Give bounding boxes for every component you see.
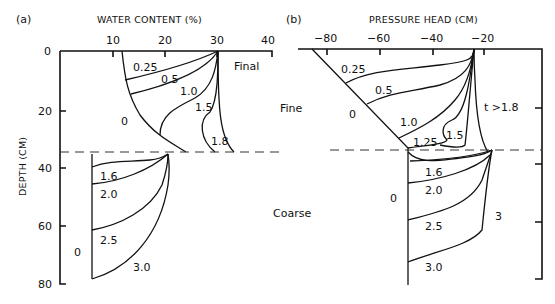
label-a-t15: 1.5 <box>195 101 213 114</box>
label-b-c25: 2.5 <box>425 220 443 233</box>
curve-a-c16 <box>92 154 168 167</box>
layer-label-fine: Fine <box>280 102 303 115</box>
label-b-t05: 0.5 <box>375 84 393 97</box>
label-b-t15: 1.5 <box>446 129 464 142</box>
label-b-t0: 0 <box>349 108 356 121</box>
y-tick-40: 40 <box>38 162 52 175</box>
panel-a-y-ticks <box>60 111 66 226</box>
label-a-c20: 2.0 <box>100 188 118 201</box>
label-a-c30: 3.0 <box>133 261 151 274</box>
curve-b-t125 <box>408 49 474 148</box>
y-tick-60: 60 <box>38 220 52 233</box>
x-tick-neg40: −40 <box>420 32 443 45</box>
label-a-t18: 1.8 <box>211 135 229 148</box>
label-a-c16: 1.6 <box>100 170 118 183</box>
label-a-t025: 0.25 <box>133 61 158 74</box>
x-tick-10: 10 <box>106 34 120 47</box>
label-b-c16: 1.6 <box>425 166 443 179</box>
x-tick-neg80: −80 <box>314 32 337 45</box>
label-b-c0: 0 <box>390 192 397 205</box>
y-tick-80: 80 <box>38 278 52 291</box>
label-b-t-gt-18: t >1.8 <box>484 101 519 114</box>
y-tick-0: 0 <box>44 45 51 58</box>
label-a-t0: 0 <box>121 115 128 128</box>
panel-b-frame <box>298 49 542 279</box>
panel-a-label: (a) <box>16 13 31 26</box>
curve-b-c30 <box>408 150 492 262</box>
label-b-t025: 0.25 <box>341 63 366 76</box>
x-tick-30: 30 <box>210 34 224 47</box>
label-a-c25: 2.5 <box>100 234 118 247</box>
panel-b: (b) PRESSURE HEAD (CM) −80 −60 −40 −20 F… <box>273 13 542 285</box>
x-tick-neg20: −20 <box>471 32 494 45</box>
panel-a-title: WATER CONTENT (%) <box>97 14 202 25</box>
x-tick-neg60: −60 <box>367 32 390 45</box>
curve-b-c-transition-1 <box>408 150 492 161</box>
panel-b-title: PRESSURE HEAD (CM) <box>369 14 478 25</box>
label-b-c30: 3.0 <box>425 261 443 274</box>
label-a-c0: 0 <box>74 246 81 259</box>
label-b-c3: 3 <box>495 210 502 223</box>
label-a-t05: 0.5 <box>161 73 179 86</box>
label-a-final: Final <box>234 60 259 73</box>
panel-b-label: (b) <box>286 13 302 26</box>
figure-canvas: (a) WATER CONTENT (%) 10 20 30 40 0 20 4… <box>0 0 555 304</box>
label-b-c20: 2.0 <box>425 184 443 197</box>
x-tick-20: 20 <box>158 34 172 47</box>
panel-b-x-ticks <box>327 49 484 55</box>
y-tick-20: 20 <box>38 105 52 118</box>
layer-label-coarse: Coarse <box>273 207 311 220</box>
panel-a: (a) WATER CONTENT (%) 10 20 30 40 0 20 4… <box>16 13 280 291</box>
y-axis-label: DEPTH (CM) <box>17 137 28 196</box>
panel-b-right-ticks <box>535 108 542 222</box>
label-a-t10: 1.0 <box>180 85 198 98</box>
panel-a-top-axis <box>60 51 272 57</box>
label-b-t125: 1.25 <box>413 136 438 149</box>
label-b-t10: 1.0 <box>400 116 418 129</box>
x-tick-40: 40 <box>261 34 275 47</box>
panel-a-x-ticks <box>113 51 217 57</box>
